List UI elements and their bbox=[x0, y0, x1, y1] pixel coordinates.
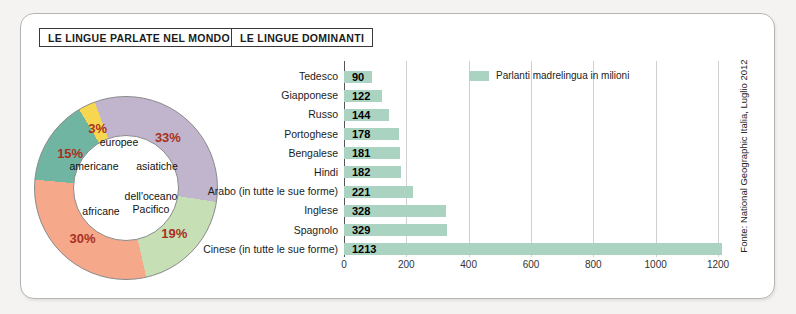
infographic-card: LE LINGUE PARLATE NEL MONDO LE LINGUE DO… bbox=[20, 13, 775, 299]
bar-track: 122 bbox=[344, 86, 743, 105]
bar: 221 bbox=[344, 186, 413, 198]
bar-value-label: 329 bbox=[352, 224, 370, 236]
donut-chart-title: LE LINGUE PARLATE NEL MONDO bbox=[39, 28, 239, 47]
bar-category-label: Tedesco bbox=[183, 67, 344, 86]
legend-label: Parlanti madrelingua in milioni bbox=[496, 70, 629, 81]
legend: Parlanti madrelingua in milioni bbox=[469, 70, 629, 81]
bar-value-label: 122 bbox=[352, 90, 370, 102]
x-axis-tick-labels: 020040060080010001200 bbox=[344, 259, 718, 273]
bar: 182 bbox=[344, 166, 401, 178]
bar-category-label: Spagnolo bbox=[183, 221, 344, 240]
bar-category-label: Inglese bbox=[183, 201, 344, 220]
x-axis-tick: 0 bbox=[341, 259, 347, 270]
bar-row: Inglese328 bbox=[183, 201, 743, 220]
legend-swatch bbox=[469, 71, 489, 81]
bar: 329 bbox=[344, 224, 447, 236]
bar-row: Cinese (in tutte le sue forme)1213 bbox=[183, 240, 743, 259]
bar-value-label: 144 bbox=[352, 109, 370, 121]
bar-category-label: Bengalese bbox=[183, 144, 344, 163]
bar: 181 bbox=[344, 147, 400, 159]
bar-category-label: Portoghese bbox=[183, 125, 344, 144]
pie-segment-label: asiatiche bbox=[136, 160, 177, 172]
x-axis-tick: 800 bbox=[585, 259, 602, 270]
bar-row: Russo144 bbox=[183, 105, 743, 124]
bar-track: 144 bbox=[344, 105, 743, 124]
bar-value-label: 328 bbox=[352, 205, 370, 217]
bar: 90 bbox=[344, 71, 372, 83]
bar-chart-title: LE LINGUE DOMINANTI bbox=[231, 28, 373, 47]
bar-row: Arabo (in tutte le sue forme)221 bbox=[183, 182, 743, 201]
bar-chart-rows: Tedesco90Giapponese122Russo144Portoghese… bbox=[183, 67, 743, 259]
pie-percent-label: 33% bbox=[155, 129, 181, 144]
pie-segment-label: americane bbox=[69, 160, 118, 172]
bar-category-label: Hindi bbox=[183, 163, 344, 182]
bar: 328 bbox=[344, 205, 446, 217]
bar-value-label: 221 bbox=[352, 186, 370, 198]
bar-value-label: 1213 bbox=[352, 243, 376, 255]
bar: 178 bbox=[344, 128, 399, 140]
x-axis-tick: 1200 bbox=[707, 259, 729, 270]
x-axis-tick: 200 bbox=[398, 259, 415, 270]
x-axis-tick: 1000 bbox=[645, 259, 667, 270]
bar-value-label: 90 bbox=[352, 71, 364, 83]
bar-track: 329 bbox=[344, 221, 743, 240]
bar: 1213 bbox=[344, 243, 722, 255]
bar-track: 328 bbox=[344, 201, 743, 220]
bar-category-label: Arabo (in tutte le sue forme) bbox=[183, 182, 344, 201]
bar-value-label: 182 bbox=[352, 166, 370, 178]
bar-category-label: Russo bbox=[183, 105, 344, 124]
bar-value-label: 178 bbox=[352, 128, 370, 140]
bar: 144 bbox=[344, 109, 389, 121]
bar-track: 221 bbox=[344, 182, 743, 201]
bar-track: 1213 bbox=[344, 240, 743, 259]
bar-category-label: Cinese (in tutte le sue forme) bbox=[183, 240, 344, 259]
bar-row: Hindi182 bbox=[183, 163, 743, 182]
bar: 122 bbox=[344, 90, 382, 102]
pie-percent-label: 3% bbox=[88, 121, 107, 136]
pie-percent-label: 15% bbox=[57, 145, 83, 160]
bar-track: 182 bbox=[344, 163, 743, 182]
pie-segment-label: africane bbox=[82, 205, 119, 217]
x-axis-tick: 600 bbox=[523, 259, 540, 270]
bar-row: Bengalese181 bbox=[183, 144, 743, 163]
source-credit: Fonte: National Geographic Italia, Lugli… bbox=[738, 59, 749, 252]
bar-row: Tedesco90 bbox=[183, 67, 743, 86]
pie-segment-label: europee bbox=[100, 136, 139, 148]
pie-segment-label: dell'oceano Pacifico bbox=[111, 190, 191, 215]
bar-category-label: Giapponese bbox=[183, 86, 344, 105]
bar-value-label: 181 bbox=[352, 147, 370, 159]
bar-row: Spagnolo329 bbox=[183, 221, 743, 240]
bar-row: Portoghese178 bbox=[183, 125, 743, 144]
bar-track: 178 bbox=[344, 125, 743, 144]
x-axis-tick: 400 bbox=[460, 259, 477, 270]
pie-percent-label: 30% bbox=[70, 230, 96, 245]
bar-track: 181 bbox=[344, 144, 743, 163]
bar-row: Giapponese122 bbox=[183, 86, 743, 105]
